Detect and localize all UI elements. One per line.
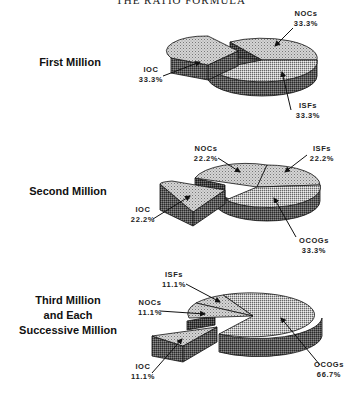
slice-name: IOC bbox=[136, 65, 166, 75]
row-label-line: Successive Million bbox=[8, 323, 128, 338]
slice-name: NOCs bbox=[190, 144, 222, 154]
slice-percent: 22.2% bbox=[190, 154, 222, 164]
row-label-first-million: First Million bbox=[20, 55, 120, 70]
slice-percent: 33.3% bbox=[290, 19, 322, 29]
slice-percent: 11.1% bbox=[128, 372, 158, 382]
slice-label-ioc-2: IOC 22.2% bbox=[128, 205, 158, 225]
slice-label-ioc-3: IOC 11.1% bbox=[128, 362, 158, 382]
slice-label-ocogs-2: OCOGs 33.3% bbox=[297, 236, 331, 256]
slice-name: ISFs bbox=[292, 101, 324, 111]
slice-name: IOC bbox=[128, 205, 158, 215]
pie-third-million bbox=[152, 284, 322, 373]
slice-label-nocs-2: NOCs 22.2% bbox=[190, 144, 222, 164]
slice-label-ioc-1: IOC 33.3% bbox=[136, 65, 166, 85]
slice-label-isfs-1: ISFs 33.3% bbox=[292, 101, 324, 121]
pie-first-million bbox=[163, 28, 317, 110]
slice-name: OCOGs bbox=[297, 236, 331, 246]
slice-label-isfs-2: ISFs 22.2% bbox=[306, 144, 338, 164]
slice-name: OCOGs bbox=[312, 360, 346, 370]
slice-percent: 33.3% bbox=[292, 111, 324, 121]
slice-percent: 66.7% bbox=[312, 370, 346, 380]
slice-percent: 11.1% bbox=[158, 280, 190, 290]
slice-label-nocs-1: NOCs 33.3% bbox=[290, 9, 322, 29]
slice-percent: 22.2% bbox=[306, 154, 338, 164]
slice-name: ISFs bbox=[158, 270, 190, 280]
slice-name: NOCs bbox=[290, 9, 322, 19]
slice-label-nocs-3: NOCs 11.1% bbox=[134, 298, 166, 318]
row-label-line: First Million bbox=[20, 55, 120, 70]
slice-percent: 33.3% bbox=[297, 246, 331, 256]
slice-percent: 33.3% bbox=[136, 75, 166, 85]
slice-name: NOCs bbox=[134, 298, 166, 308]
slice-percent: 22.2% bbox=[128, 215, 158, 225]
slice-label-isfs-3: ISFs 11.1% bbox=[158, 270, 190, 290]
row-label-line: Second Million bbox=[12, 184, 124, 199]
slice-name: IOC bbox=[128, 362, 158, 372]
row-label-line: Third Million bbox=[8, 293, 128, 308]
row-label-line: and Each bbox=[8, 308, 128, 323]
slice-name: ISFs bbox=[306, 144, 338, 154]
pie-second-million bbox=[153, 155, 320, 237]
slice-percent: 11.1% bbox=[134, 308, 166, 318]
slice-label-ocogs-3: OCOGs 66.7% bbox=[312, 360, 346, 380]
row-label-second-million: Second Million bbox=[12, 184, 124, 199]
row-label-third-million: Third Million and Each Successive Millio… bbox=[8, 293, 128, 338]
